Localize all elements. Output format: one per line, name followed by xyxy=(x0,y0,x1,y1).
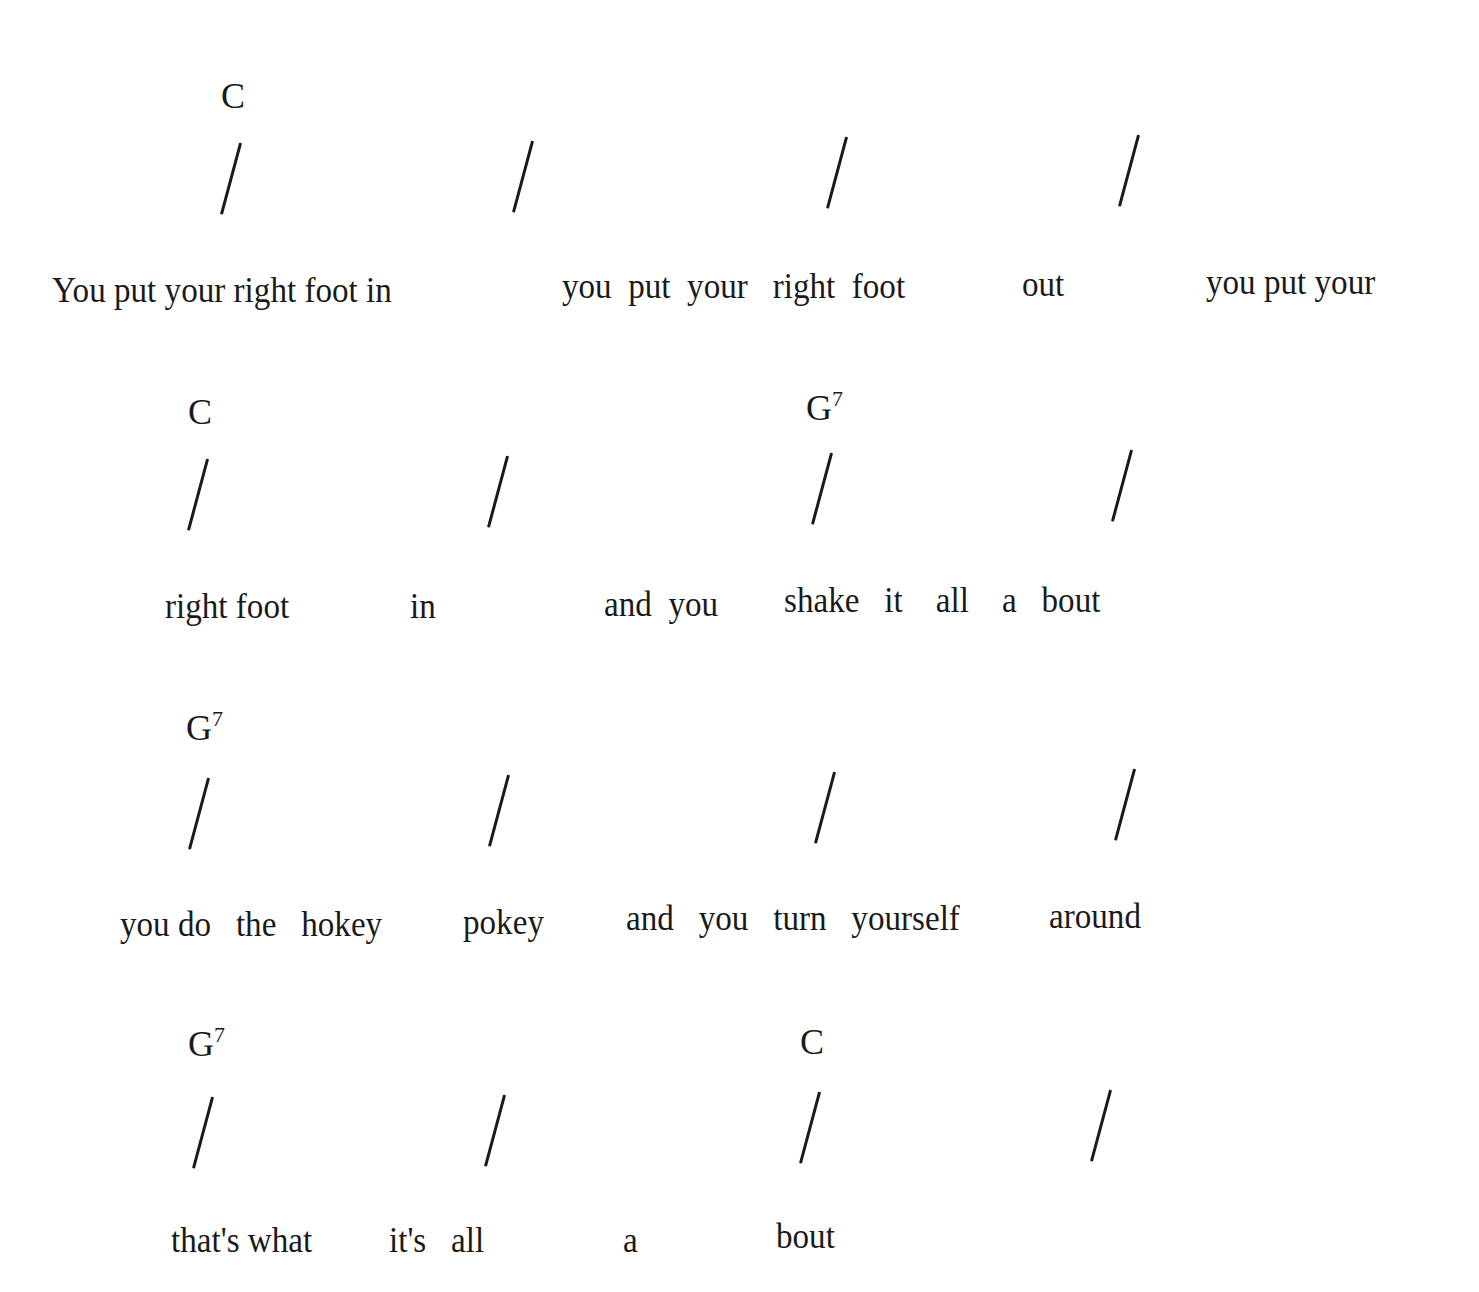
lyric-text: in xyxy=(410,588,436,624)
strum-slash-icon xyxy=(188,778,210,850)
chord-root: G xyxy=(186,708,212,748)
chord-root: G xyxy=(806,388,832,428)
lyric-text: it's all xyxy=(389,1222,484,1258)
strum-slash-icon xyxy=(1111,450,1133,522)
lyric-text: you put your xyxy=(1206,264,1375,300)
strum-slash-icon xyxy=(1090,1090,1112,1162)
chord-symbol: G7 xyxy=(186,710,223,746)
lyric-text: around xyxy=(1049,898,1141,934)
chord-root: G xyxy=(188,1024,214,1064)
chord-symbol: G7 xyxy=(188,1026,225,1062)
chord-root: C xyxy=(221,76,245,116)
chord-extension: 7 xyxy=(832,386,843,411)
lyric-text: you do the hokey xyxy=(120,906,382,942)
strum-slash-icon xyxy=(826,137,848,209)
strum-slash-icon xyxy=(799,1092,821,1164)
lyric-text: shake it all a bout xyxy=(784,582,1100,618)
chord-extension: 7 xyxy=(214,1022,225,1047)
chord-symbol: C xyxy=(800,1024,824,1060)
lyric-text: pokey xyxy=(463,904,544,940)
chord-root: C xyxy=(188,392,212,432)
chord-root: C xyxy=(800,1022,824,1062)
strum-slash-icon xyxy=(814,772,836,844)
strum-slash-icon xyxy=(487,456,509,528)
lyric-text: you put your right foot xyxy=(562,268,905,304)
lyric-text: and you xyxy=(604,586,718,622)
strum-slash-icon xyxy=(811,453,833,525)
strum-slash-icon xyxy=(187,459,209,531)
lyric-text: and you turn yourself xyxy=(626,900,960,936)
chord-extension: 7 xyxy=(212,706,223,731)
lyric-text: right foot xyxy=(165,588,289,624)
chord-symbol: G7 xyxy=(806,390,843,426)
strum-slash-icon xyxy=(488,775,510,847)
strum-slash-icon xyxy=(192,1097,214,1169)
lyric-text: bout xyxy=(776,1218,835,1254)
lyric-text: out xyxy=(1022,266,1064,302)
strum-slash-icon xyxy=(484,1095,506,1167)
lyric-text: You put your right foot in xyxy=(52,272,392,308)
chord-symbol: C xyxy=(221,78,245,114)
strum-slash-icon xyxy=(512,141,534,213)
strum-slash-icon xyxy=(220,143,242,215)
lyric-text: a xyxy=(623,1222,638,1258)
strum-slash-icon xyxy=(1118,135,1140,207)
chord-symbol: C xyxy=(188,394,212,430)
strum-slash-icon xyxy=(1114,769,1136,841)
lyric-text: that's what xyxy=(171,1222,312,1258)
